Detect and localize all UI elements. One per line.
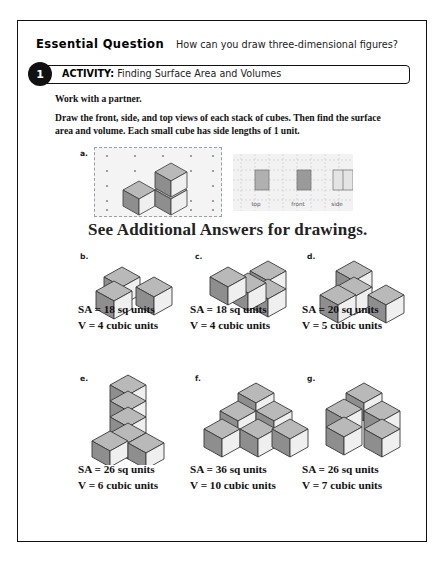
surface-area-b: SA = 18 sq units [78,302,158,318]
volume-f: V = 10 cubic units [190,478,276,494]
volume-c: V = 4 cubic units [190,318,270,334]
surface-area-e: SA = 26 sq units [78,462,158,478]
volume-e: V = 6 cubic units [78,478,158,494]
values-d: SA = 20 sq units V = 5 cubic units [302,302,382,334]
values-e: SA = 26 sq units V = 6 cubic units [78,462,158,494]
top-view-shape [255,170,269,190]
item-letter-b: b. [80,252,88,261]
front-view-shape [297,170,311,190]
dot-paper-panel [94,147,222,217]
essential-question-text: How can you draw three-dimensional figur… [176,39,398,50]
values-b: SA = 18 sq units V = 4 cubic units [78,302,158,334]
instructions-body: Draw the front, side, and top views of e… [55,111,385,137]
values-g: SA = 26 sq units V = 7 cubic units [302,462,382,494]
item-letter-d: d. [307,252,315,261]
work-with-partner: Work with a partner. [55,93,142,104]
view-label-side: side [317,201,357,207]
activity-title: ACTIVITY: Finding Surface Area and Volum… [62,68,281,79]
item-letter-c: c. [195,252,202,261]
surface-area-g: SA = 26 sq units [302,462,382,478]
view-label-top: top [233,201,279,207]
item-letter-a: a. [80,149,88,158]
worksheet-page: Essential Question How can you draw thre… [17,20,427,542]
figure-f [202,381,312,471]
item-letter-g: g. [307,374,315,383]
item-letter-f: f. [195,374,201,383]
activity-title-text: Finding Surface Area and Volumes [117,68,281,79]
dot-paper-figure [95,148,221,216]
item-letter-e: e. [80,374,88,383]
activity-number-badge: 1 [28,62,52,86]
volume-g: V = 7 cubic units [302,478,382,494]
volume-b: V = 4 cubic units [78,318,158,334]
view-label-front: front [275,201,321,207]
surface-area-c: SA = 18 sq units [190,302,270,318]
essential-question: Essential Question How can you draw thre… [36,37,410,51]
surface-area-f: SA = 36 sq units [190,462,276,478]
additional-answers-note: See Additional Answers for drawings. [88,220,367,240]
surface-area-d: SA = 20 sq units [302,302,382,318]
volume-d: V = 5 cubic units [302,318,382,334]
activity-kicker: ACTIVITY: [62,68,114,79]
values-c: SA = 18 sq units V = 4 cubic units [190,302,270,334]
values-f: SA = 36 sq units V = 10 cubic units [190,462,276,494]
figure-g [318,379,418,471]
figure-e [88,373,184,469]
essential-question-label: Essential Question [36,37,164,51]
